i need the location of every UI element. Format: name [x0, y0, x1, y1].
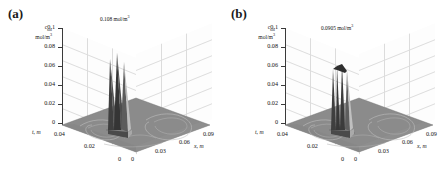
- y-tick-1: 0.02: [307, 142, 318, 149]
- x-tick-3: 0.09: [426, 130, 437, 137]
- x-axis-title: x, m: [194, 143, 204, 149]
- y-axis-title: t, m: [32, 129, 41, 135]
- panel-a-peak-annotation: 0.108 mol/m3: [100, 14, 130, 22]
- x-tick-1: 0.03: [378, 147, 389, 154]
- panel-a: (a): [0, 0, 223, 179]
- x-axis-title: x, m: [417, 143, 427, 149]
- figure-container: (a): [0, 0, 446, 179]
- panel-a-label: (a): [8, 6, 23, 22]
- y-tick-2: 0.04: [277, 130, 288, 137]
- panel-b-label: (b): [231, 6, 247, 22]
- y-tick-0: 0: [118, 155, 121, 162]
- panel-b-plot-area: csol mol/m3 0.1 0.08 0.06 0.04 0.02 0: [251, 26, 439, 158]
- y-axis-title: t, m: [255, 129, 264, 135]
- y-tick-0: 0: [341, 155, 344, 162]
- panel-a-plot-area: csol mol/m3 0.1 0.08 0.06 0.04 0.02 0: [28, 26, 216, 158]
- x-tick-0: 0: [354, 155, 357, 162]
- y-tick-1: 0.02: [84, 142, 95, 149]
- x-tick-2: 0.06: [402, 138, 413, 145]
- x-tick-3: 0.09: [203, 130, 214, 137]
- x-tick-1: 0.03: [155, 147, 166, 154]
- panel-b-peak-annotation: 0.0905 mol/m3: [321, 23, 353, 31]
- x-tick-0: 0: [131, 155, 134, 162]
- panel-b: (b) csol: [223, 0, 446, 179]
- x-tick-2: 0.06: [179, 138, 190, 145]
- y-tick-2: 0.04: [54, 130, 65, 137]
